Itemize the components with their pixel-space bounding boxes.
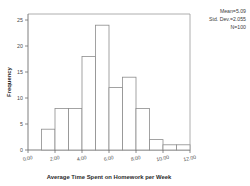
y-tick-label: 20 [17, 43, 23, 49]
histogram-bar [69, 108, 83, 150]
x-tick-label: 8.00 [130, 154, 141, 162]
std-dev-label: Std. Dev.=2.055 [209, 16, 246, 22]
histogram-bar [136, 108, 150, 150]
x-axis-title: Average Time Spent on Homework per Week [47, 174, 172, 180]
y-tick-label: 10 [17, 95, 23, 101]
histogram-bar [150, 140, 164, 150]
histogram-figure: 0 5 10 15 20 25 Frequency 0.002.004.006.… [0, 0, 250, 186]
x-tick-label: 4.00 [76, 154, 87, 162]
n-label: N=100 [231, 24, 247, 30]
histogram-bar [109, 88, 123, 150]
x-tick-label: 10.00 [156, 154, 170, 162]
y-tick-label: 15 [17, 69, 23, 75]
y-tick-label: 0 [20, 147, 23, 153]
x-axis-tick-labels: 0.002.004.006.008.0010.0012.00 [22, 154, 196, 162]
stats-annotation: Mean=5.09 Std. Dev.=2.055 N=100 [209, 8, 246, 30]
histogram-bar [82, 56, 96, 150]
y-axis-tick-labels: 0 5 10 15 20 25 [17, 17, 23, 153]
y-tick-label: 25 [17, 17, 23, 23]
histogram-bar [42, 129, 56, 150]
x-tick-label: 6.00 [103, 154, 114, 162]
x-tick-label: 12.00 [183, 154, 197, 162]
histogram-bar [96, 25, 110, 150]
histogram-bar [55, 108, 69, 150]
histogram-bar [177, 145, 191, 150]
y-tick-label: 5 [20, 121, 23, 127]
x-tick-label: 2.00 [49, 154, 60, 162]
x-tick-label: 0.00 [22, 154, 33, 162]
mean-label: Mean=5.09 [220, 8, 246, 14]
histogram-bar [123, 77, 137, 150]
histogram-svg: 0 5 10 15 20 25 Frequency 0.002.004.006.… [0, 0, 250, 186]
histogram-bars [42, 25, 191, 150]
histogram-bar [163, 145, 177, 150]
y-axis-title: Frequency [6, 66, 12, 97]
